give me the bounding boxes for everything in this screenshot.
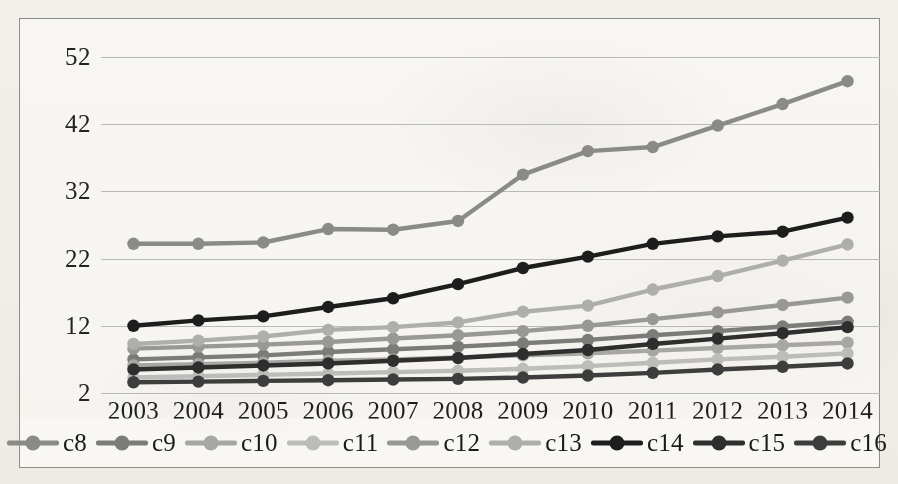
data-point-marker xyxy=(127,376,139,388)
legend-swatch-icon xyxy=(489,433,541,453)
data-point-marker xyxy=(387,224,399,236)
data-point-marker xyxy=(582,299,594,311)
legend-label: c12 xyxy=(439,429,485,457)
data-point-marker xyxy=(712,230,724,242)
y-axis-tick-label: 52 xyxy=(65,43,91,71)
legend-marker-dot xyxy=(813,435,828,450)
plot-area xyxy=(101,57,880,393)
data-point-marker xyxy=(712,306,724,318)
data-point-marker xyxy=(647,338,659,350)
legend-item-c9[interactable]: c9 xyxy=(94,429,183,457)
data-point-marker xyxy=(387,373,399,385)
data-point-marker xyxy=(776,327,788,339)
data-point-marker xyxy=(387,321,399,333)
legend-label: c16 xyxy=(846,429,892,457)
data-point-marker xyxy=(192,375,204,387)
data-point-marker xyxy=(582,145,594,157)
data-point-marker xyxy=(776,98,788,110)
data-point-marker xyxy=(776,254,788,266)
legend-item-c15[interactable]: c15 xyxy=(691,429,793,457)
data-point-marker xyxy=(322,301,334,313)
legend-swatch-icon xyxy=(387,433,439,453)
legend-swatch-icon xyxy=(591,433,643,453)
data-point-marker xyxy=(322,357,334,369)
legend-item-c11[interactable]: c11 xyxy=(285,429,386,457)
data-point-marker xyxy=(841,291,853,303)
legend-swatch-icon xyxy=(287,433,339,453)
data-point-marker xyxy=(257,375,269,387)
data-point-marker xyxy=(647,313,659,325)
legend-marker-dot xyxy=(115,435,130,450)
data-point-marker xyxy=(192,361,204,373)
data-point-marker xyxy=(257,310,269,322)
data-point-marker xyxy=(841,75,853,87)
data-point-marker xyxy=(257,359,269,371)
legend-marker-dot xyxy=(508,435,523,450)
data-point-marker xyxy=(712,363,724,375)
legend-item-c13[interactable]: c13 xyxy=(487,429,589,457)
data-point-marker xyxy=(517,305,529,317)
data-point-marker xyxy=(322,223,334,235)
data-point-marker xyxy=(517,371,529,383)
legend-items: c8c9c10c11c12c13c14c15c16 xyxy=(5,429,894,457)
data-point-marker xyxy=(452,329,464,341)
data-point-marker xyxy=(517,337,529,349)
data-point-marker xyxy=(257,236,269,248)
legend-marker-dot xyxy=(26,435,41,450)
chart-figure: 52423222122 2003200420052006200720082009… xyxy=(0,0,898,484)
legend-label: c11 xyxy=(339,429,384,457)
data-point-marker xyxy=(322,374,334,386)
data-point-marker xyxy=(322,336,334,348)
data-point-marker xyxy=(452,215,464,227)
y-axis-tick-label: 2 xyxy=(78,379,91,407)
legend-item-c8[interactable]: c8 xyxy=(5,429,94,457)
data-point-marker xyxy=(712,332,724,344)
gridline xyxy=(101,393,880,394)
data-point-marker xyxy=(647,238,659,250)
data-point-marker xyxy=(582,250,594,262)
series-line xyxy=(133,81,847,244)
data-point-marker xyxy=(387,292,399,304)
legend-marker-dot xyxy=(305,435,320,450)
data-point-marker xyxy=(387,332,399,344)
y-axis-tick-label: 12 xyxy=(65,312,91,340)
data-point-marker xyxy=(517,262,529,274)
data-point-marker xyxy=(192,334,204,346)
y-axis: 52423222122 xyxy=(39,57,91,393)
data-point-marker xyxy=(517,168,529,180)
legend-item-c16[interactable]: c16 xyxy=(792,429,894,457)
data-point-marker xyxy=(841,357,853,369)
data-point-marker xyxy=(647,283,659,295)
data-point-marker xyxy=(712,119,724,131)
data-point-marker xyxy=(647,141,659,153)
data-point-marker xyxy=(712,270,724,282)
legend-item-c12[interactable]: c12 xyxy=(385,429,487,457)
data-point-marker xyxy=(452,278,464,290)
data-point-marker xyxy=(127,363,139,375)
data-point-marker xyxy=(776,339,788,351)
legend-label: c14 xyxy=(643,429,689,457)
series-line xyxy=(133,322,847,360)
data-point-marker xyxy=(452,352,464,364)
legend-label: c9 xyxy=(148,429,181,457)
data-point-marker xyxy=(841,336,853,348)
data-point-marker xyxy=(841,238,853,250)
data-point-marker xyxy=(257,330,269,342)
data-point-marker xyxy=(387,355,399,367)
y-axis-tick-label: 32 xyxy=(65,177,91,205)
data-point-marker xyxy=(192,314,204,326)
data-point-marker xyxy=(127,338,139,350)
y-axis-tick-label: 42 xyxy=(65,110,91,138)
legend-item-c14[interactable]: c14 xyxy=(589,429,691,457)
legend-swatch-icon xyxy=(96,433,148,453)
data-point-marker xyxy=(841,321,853,333)
data-point-marker xyxy=(776,299,788,311)
legend-swatch-icon xyxy=(7,433,59,453)
legend-marker-dot xyxy=(406,435,421,450)
legend-swatch-icon xyxy=(693,433,745,453)
data-point-marker xyxy=(776,226,788,238)
data-point-marker xyxy=(127,320,139,332)
legend-item-c10[interactable]: c10 xyxy=(183,429,285,457)
data-point-marker xyxy=(582,320,594,332)
data-point-marker xyxy=(452,316,464,328)
